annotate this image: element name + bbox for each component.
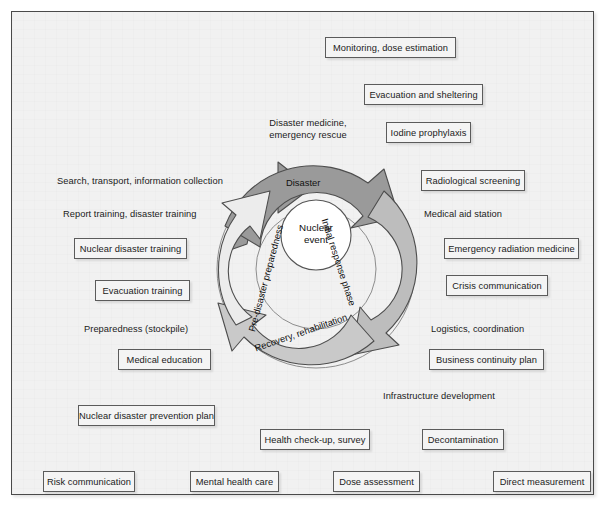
box-evacuation-and-sheltering[interactable]: Evacuation and sheltering (364, 84, 483, 105)
center-label: Nuclear event (286, 222, 346, 246)
box-evacuation-training[interactable]: Evacuation training (95, 280, 190, 301)
box-monitoring-dose-estimation[interactable]: Monitoring, dose estimation (325, 37, 456, 58)
label-logistics-coordination: Logistics, coordination (431, 323, 524, 335)
box-health-checkup-survey[interactable]: Health check-up, survey (260, 429, 370, 450)
label-infrastructure-development: Infrastructure development (383, 390, 495, 402)
box-business-continuity-plan[interactable]: Business continuity plan (429, 349, 544, 370)
box-direct-measurement[interactable]: Direct measurement (493, 471, 591, 492)
box-medical-education[interactable]: Medical education (118, 349, 211, 370)
label-search-transport: Search, transport, information collectio… (57, 175, 223, 187)
box-crisis-communication[interactable]: Crisis communication (446, 275, 548, 296)
diagram-page: Disaster Initial response phase Recovery… (0, 0, 609, 506)
label-medical-aid-station: Medical aid station (424, 208, 502, 220)
box-dose-assessment[interactable]: Dose assessment (333, 471, 420, 492)
label-preparedness-stockpile: Preparedness (stockpile) (84, 323, 188, 335)
box-nuclear-disaster-training[interactable]: Nuclear disaster training (74, 238, 187, 259)
center-label-line2: event (286, 234, 346, 246)
label-report-training: Report training, disaster training (63, 208, 196, 220)
box-radiological-screening[interactable]: Radiological screening (421, 170, 525, 191)
nuclear-disaster-cycle: Disaster Initial response phase Recovery… (208, 155, 424, 391)
label-disaster-medicine-line2: emergency rescue (269, 130, 346, 140)
box-risk-communication[interactable]: Risk communication (43, 471, 135, 492)
label-disaster-medicine: Disaster medicine, emergency rescue (256, 117, 360, 141)
box-decontamination[interactable]: Decontamination (422, 429, 504, 450)
box-emergency-radiation-medicine[interactable]: Emergency radiation medicine (444, 238, 579, 259)
box-mental-health-care[interactable]: Mental health care (190, 471, 279, 492)
center-label-line1: Nuclear (286, 222, 346, 234)
box-iodine-prophylaxis[interactable]: Iodine prophylaxis (386, 122, 471, 143)
label-disaster-medicine-line1: Disaster medicine, (269, 118, 346, 128)
box-nuclear-disaster-prevention-plan[interactable]: Nuclear disaster prevention plan (78, 405, 215, 426)
diagram-frame: Disaster Initial response phase Recovery… (11, 11, 594, 495)
arrow-pre-disaster (218, 191, 270, 325)
